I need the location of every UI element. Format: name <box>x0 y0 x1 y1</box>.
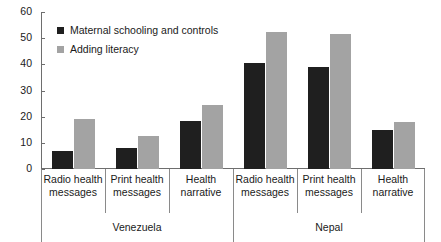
bar-group-2 <box>169 12 233 169</box>
category-divider-4 <box>297 169 298 213</box>
category-divider-3 <box>233 169 234 213</box>
category-label: Print healthmessages <box>297 173 361 198</box>
y-tick-label: 20 <box>20 110 32 123</box>
bar-group-5 <box>361 12 425 169</box>
bars-layer <box>41 12 425 169</box>
bar-series-0-category-2 <box>180 121 201 169</box>
bar-series-1-category-5 <box>394 122 415 169</box>
bar-group-1 <box>105 12 169 169</box>
bar-series-1-category-3 <box>266 32 287 169</box>
category-label: Radio healthmessages <box>233 173 297 198</box>
group-cell-0: Venezuela <box>41 213 233 242</box>
y-tick-label: 60 <box>20 5 32 18</box>
group-label: Nepal <box>315 221 342 234</box>
category-cell-2: Healthnarrative <box>169 169 233 213</box>
bar-series-0-category-4 <box>308 67 329 169</box>
axis-frame-right <box>424 169 425 242</box>
category-divider-1 <box>105 169 106 213</box>
bar-series-1-category-4 <box>330 34 351 169</box>
bar-group-3 <box>233 12 297 169</box>
y-tick-label: 40 <box>20 57 32 70</box>
bar-series-1-category-0 <box>74 119 95 169</box>
bar-series-0-category-5 <box>372 130 393 169</box>
category-cell-0: Radio healthmessages <box>41 169 105 213</box>
bar-series-1-category-2 <box>202 105 223 169</box>
y-tick-label: 30 <box>20 84 32 97</box>
group-divider-1 <box>233 213 234 242</box>
category-cell-3: Radio healthmessages <box>233 169 297 213</box>
y-tick-label: 50 <box>20 31 32 44</box>
axis-frame-left <box>41 169 42 242</box>
y-tick-label: 10 <box>20 136 32 149</box>
category-label: Healthnarrative <box>361 173 425 198</box>
bar-series-0-category-3 <box>244 63 265 169</box>
category-divider-2 <box>169 169 170 213</box>
bar-series-1-category-1 <box>138 136 159 169</box>
category-label: Healthnarrative <box>169 173 233 198</box>
category-label: Print healthmessages <box>105 173 169 198</box>
category-cell-1: Print healthmessages <box>105 169 169 213</box>
category-label: Radio healthmessages <box>41 173 105 198</box>
group-axis-table: VenezuelaNepal <box>41 213 425 242</box>
category-cell-5: Healthnarrative <box>361 169 425 213</box>
category-cell-4: Print healthmessages <box>297 169 361 213</box>
bar-group-0 <box>41 12 105 169</box>
bar-group-4 <box>297 12 361 169</box>
grouped-bar-chart: 0102030405060 Maternal schooling and con… <box>0 0 441 242</box>
group-label: Venezuela <box>112 221 161 234</box>
bar-series-0-category-0 <box>52 151 73 169</box>
group-cell-1: Nepal <box>233 213 425 242</box>
category-axis-table: Radio healthmessagesPrint healthmessages… <box>41 169 425 213</box>
bar-series-0-category-1 <box>116 148 137 169</box>
y-tick-label: 0 <box>26 162 32 175</box>
category-divider-5 <box>361 169 362 213</box>
